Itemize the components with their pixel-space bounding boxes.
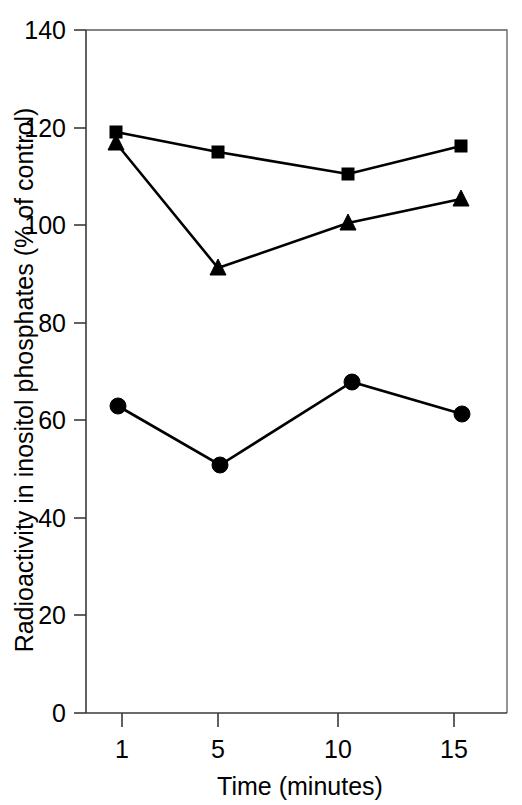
x-tick-label: 5 xyxy=(211,735,225,763)
marker-circle xyxy=(344,374,360,390)
x-axis-tick-labels: 1 5 10 15 xyxy=(115,735,468,763)
x-tick-label: 10 xyxy=(324,735,352,763)
marker-square xyxy=(212,146,224,158)
y-tick-label: 60 xyxy=(38,406,66,434)
marker-circle xyxy=(454,406,470,422)
series-square-line xyxy=(116,132,461,174)
plot-frame xyxy=(86,30,507,713)
x-tick-label: 15 xyxy=(440,735,468,763)
y-axis-ticks xyxy=(74,30,86,713)
series-circle-line xyxy=(118,382,462,465)
x-axis-ticks xyxy=(122,713,454,727)
line-chart: 0 20 40 60 80 100 120 140 1 5 10 15 xyxy=(0,0,522,805)
y-tick-label: 20 xyxy=(38,601,66,629)
y-tick-label: 0 xyxy=(52,699,66,727)
series-square xyxy=(110,126,467,180)
figure-container: 0 20 40 60 80 100 120 140 1 5 10 15 xyxy=(0,0,522,805)
y-tick-label: 80 xyxy=(38,309,66,337)
x-tick-label: 1 xyxy=(115,735,129,763)
marker-triangle xyxy=(453,190,469,206)
y-axis-title: Radioactivity in inositol phosphates (% … xyxy=(10,108,38,653)
x-axis-title: Time (minutes) xyxy=(217,772,383,800)
marker-square xyxy=(455,140,467,152)
series-triangle xyxy=(108,134,469,275)
marker-circle xyxy=(212,457,228,473)
marker-circle xyxy=(110,398,126,414)
series-circle xyxy=(110,374,470,473)
y-tick-label: 40 xyxy=(38,504,66,532)
marker-square xyxy=(342,168,354,180)
y-tick-label: 140 xyxy=(24,16,66,44)
series-triangle-line xyxy=(116,143,461,268)
